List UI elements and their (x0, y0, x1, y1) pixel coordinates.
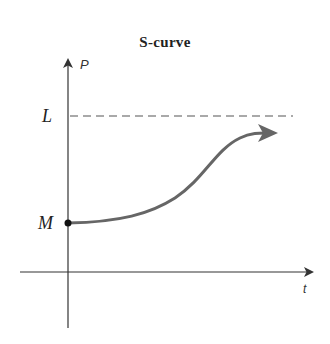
s-curve-diagram: P t L M (0, 0, 330, 344)
start-point-dot (65, 220, 72, 227)
p-axis-label: P (80, 57, 89, 72)
t-axis-label: t (303, 282, 307, 296)
m-label: M (37, 213, 54, 233)
s-curve-line (68, 133, 272, 223)
l-label: L (41, 106, 52, 126)
